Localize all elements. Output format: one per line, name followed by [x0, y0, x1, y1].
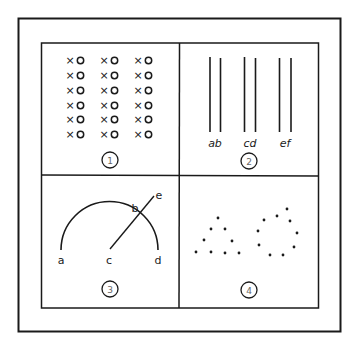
- o-mark: [111, 87, 117, 93]
- o-mark: [77, 57, 83, 63]
- x-mark: ×: [133, 69, 142, 82]
- x-mark: ×: [99, 54, 108, 67]
- o-mark: [145, 87, 151, 93]
- o-mark: [145, 102, 151, 108]
- label-ab: ab: [208, 137, 222, 150]
- dot-circle: [257, 208, 299, 257]
- o-mark: [145, 57, 151, 63]
- o-mark: [77, 102, 83, 108]
- x-mark: ×: [133, 99, 142, 112]
- o-mark: [145, 131, 151, 137]
- o-mark: [111, 72, 117, 78]
- x-mark: ×: [99, 128, 108, 141]
- o-mark: [111, 102, 117, 108]
- o-mark: [145, 116, 151, 122]
- x-mark: ×: [133, 84, 142, 97]
- o-mark: [77, 131, 83, 137]
- gestalt-figure: ×××××××××××××××××× 1 ab cd ef 2 a b c d …: [0, 0, 360, 348]
- o-mark: [77, 72, 83, 78]
- label-a: a: [58, 254, 65, 267]
- x-mark: ×: [133, 113, 142, 126]
- x-mark: ×: [65, 128, 74, 141]
- o-mark: [77, 87, 83, 93]
- o-mark: [111, 116, 117, 122]
- label-d: d: [155, 254, 162, 267]
- panel-1-number: 1: [107, 156, 113, 166]
- panel-2-number: 2: [246, 157, 252, 167]
- panel-3: [61, 196, 158, 250]
- x-mark: ×: [99, 84, 108, 97]
- o-mark: [111, 131, 117, 137]
- panel-3-number: 3: [107, 285, 113, 295]
- x-mark: ×: [65, 99, 74, 112]
- label-b: b: [132, 202, 139, 215]
- x-mark: ×: [65, 54, 74, 67]
- panel-4-number: 4: [246, 286, 252, 296]
- x-mark: ×: [133, 128, 142, 141]
- o-mark: [111, 57, 117, 63]
- x-mark: ×: [133, 54, 142, 67]
- panel-4: [195, 208, 299, 257]
- x-mark: ×: [99, 99, 108, 112]
- label-ef: ef: [280, 137, 293, 150]
- x-mark: ×: [65, 113, 74, 126]
- x-mark: ×: [65, 84, 74, 97]
- o-mark: [77, 116, 83, 122]
- o-mark: [145, 72, 151, 78]
- label-e: e: [156, 189, 163, 202]
- label-c: c: [106, 254, 112, 267]
- panel-1: ××××××××××××××××××: [65, 54, 151, 141]
- label-cd: cd: [243, 137, 257, 150]
- panel-2: [210, 57, 291, 132]
- x-mark: ×: [99, 69, 108, 82]
- x-mark: ×: [65, 69, 74, 82]
- x-mark: ×: [99, 113, 108, 126]
- dot-triangle: [195, 217, 241, 255]
- horizontal-divider: [42, 175, 319, 176]
